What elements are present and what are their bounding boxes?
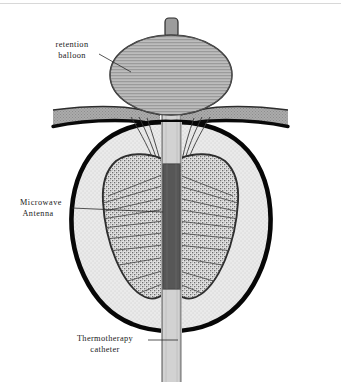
- balloon-body: [110, 35, 232, 115]
- label-microwave-antenna-line1: Microwave: [20, 198, 62, 207]
- prostate-thermotherapy-diagram: retention balloon Microwave Antenna Ther…: [0, 0, 341, 384]
- label-retention-balloon-line1: retention: [56, 40, 89, 49]
- label-microwave-antenna-line2: Antenna: [22, 209, 53, 218]
- diagram-canvas: retention balloon Microwave Antenna Ther…: [0, 0, 341, 384]
- microwave-antenna: [163, 164, 180, 289]
- label-thermotherapy-catheter-line1: Thermotherapy: [77, 334, 134, 343]
- label-retention-balloon-line2: balloon: [58, 51, 86, 60]
- antenna-element: [163, 164, 180, 289]
- label-thermotherapy-catheter-line2: catheter: [90, 345, 119, 354]
